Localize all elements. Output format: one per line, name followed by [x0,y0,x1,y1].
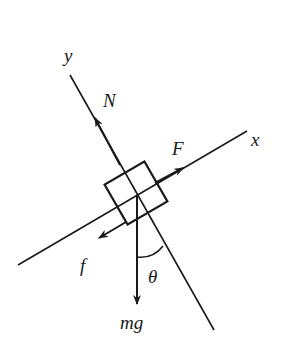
x-axis-line [18,131,247,265]
y-axis-label: y [62,45,73,66]
y-axis-line [70,75,214,330]
normal-force-label: N [102,90,117,111]
x-axis-label: x [250,129,260,150]
angle-label: θ [148,266,157,287]
angle-arc [137,246,163,257]
free-body-diagram: y N F x f θ mg [0,0,282,351]
friction-force-label: f [80,255,88,276]
normal-force-arrow [95,118,120,165]
friction-force-arrow [99,222,126,238]
weight-force-label: mg [120,312,143,333]
applied-force-label: F [171,138,184,159]
applied-force-arrow [155,168,183,183]
